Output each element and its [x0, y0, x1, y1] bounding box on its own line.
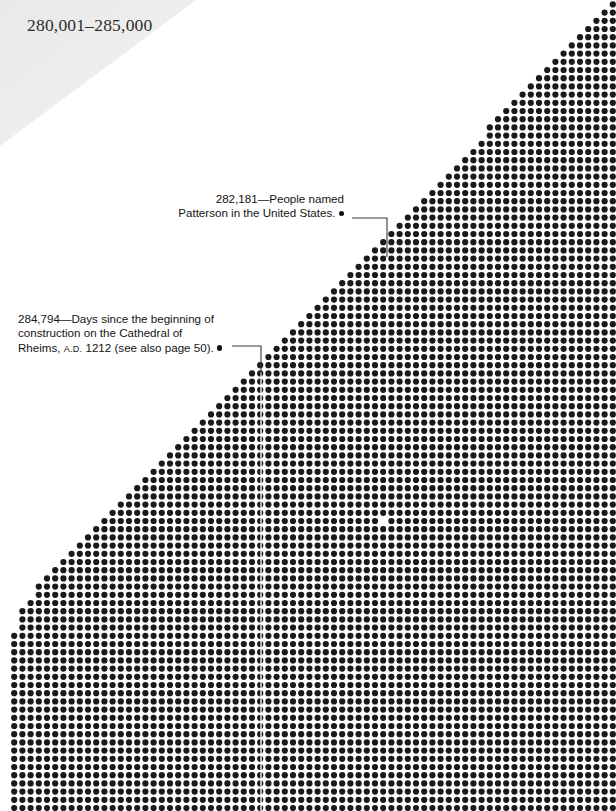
- callout-rheims-line3-a: Rheims,: [18, 341, 64, 354]
- callout-patterson-marker-dot: [339, 211, 345, 217]
- callout-patterson-line2: Patterson in the United States.: [172, 206, 344, 220]
- callout-rheims: 284,794—Days since the beginning of cons…: [18, 312, 226, 356]
- callout-patterson-line1: 282,181—People named: [172, 192, 344, 206]
- dot-matrix-field: [0, 0, 616, 811]
- callout-patterson: 282,181—People named Patterson in the Un…: [172, 192, 344, 221]
- callout-rheims-ad-smallcaps: A.D.: [64, 344, 83, 354]
- page-canvas: 280,001–285,000 282,181—People named Pat…: [0, 0, 616, 811]
- callout-rheims-line1: 284,794—Days since the beginning of: [18, 312, 226, 326]
- callout-patterson-line2-text: Patterson in the United States.: [178, 206, 335, 219]
- callout-rheims-marker-dot: [217, 345, 223, 351]
- callout-rheims-line3-b: 1212 (see also page 50).: [82, 341, 214, 354]
- callout-rheims-line2: construction on the Cathedral of: [18, 326, 226, 340]
- callout-rheims-line3: Rheims, A.D. 1212 (see also page 50).: [18, 341, 226, 356]
- dot-group: [11, 1, 616, 811]
- page-range-title: 280,001–285,000: [27, 15, 153, 36]
